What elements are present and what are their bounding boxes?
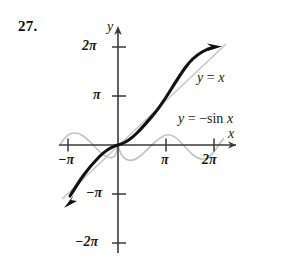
graph-canvas xyxy=(0,0,282,266)
identity-line-annotation: y = x xyxy=(197,71,224,85)
identity-label-eq: = xyxy=(207,70,215,85)
curve-negative-sine xyxy=(60,133,224,160)
sine-label-minus: − xyxy=(199,111,207,126)
identity-label-rhs: x xyxy=(218,70,224,85)
x-tick-label-2pi: 2π xyxy=(202,153,217,167)
y-tick-label-pi: π xyxy=(93,88,101,102)
x-axis-label: x xyxy=(228,127,234,141)
sine-curve-annotation: y = −sin x xyxy=(178,112,233,126)
y-axis-label: y xyxy=(107,20,113,34)
sine-label-arg: x xyxy=(227,111,233,126)
x-tick-label-pi: π xyxy=(161,153,169,167)
figure-container: 27. y x 2π π −π −2π −π π 2π xyxy=(0,0,282,266)
identity-label-lhs: y xyxy=(197,70,203,85)
sine-label-lhs: y xyxy=(178,111,184,126)
y-tick-label-2pi: 2π xyxy=(82,39,97,53)
sine-label-function: sin xyxy=(207,111,223,126)
y-tick-label-neg-pi: −π xyxy=(86,186,102,200)
sine-label-eq: = xyxy=(188,111,196,126)
y-tick-label-neg-2pi: −2π xyxy=(75,235,98,249)
x-tick-label-neg-pi: −π xyxy=(58,153,74,167)
